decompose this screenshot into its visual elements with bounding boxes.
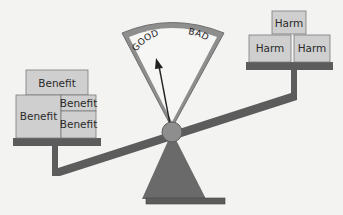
right-pan-plate	[246, 62, 333, 70]
svg-text:Harm: Harm	[256, 42, 285, 54]
left-pan: Benefit Benefit Benefit Benefit	[13, 70, 101, 146]
svg-text:Harm: Harm	[275, 17, 304, 29]
svg-text:Benefit: Benefit	[60, 97, 98, 109]
svg-text:Benefit: Benefit	[20, 110, 58, 122]
scale-base	[146, 198, 225, 204]
benefit-box: Benefit	[60, 111, 98, 138]
svg-text:Benefit: Benefit	[38, 77, 76, 89]
harm-box: Harm	[272, 11, 306, 34]
pivot	[162, 122, 182, 142]
svg-text:Harm: Harm	[298, 42, 327, 54]
benefit-box: Benefit	[60, 95, 98, 111]
balance-scale-diagram: GOOD BAD Benefit Benefit Benefit	[0, 0, 343, 215]
benefit-box: Benefit	[26, 70, 88, 95]
gauge: GOOD BAD	[122, 23, 224, 129]
svg-text:Benefit: Benefit	[60, 118, 98, 130]
right-pan: Harm Harm Harm	[246, 11, 333, 70]
harm-box: Harm	[294, 35, 330, 62]
harm-box: Harm	[249, 35, 291, 62]
left-pan-plate	[13, 138, 101, 146]
benefit-box: Benefit	[16, 95, 61, 138]
